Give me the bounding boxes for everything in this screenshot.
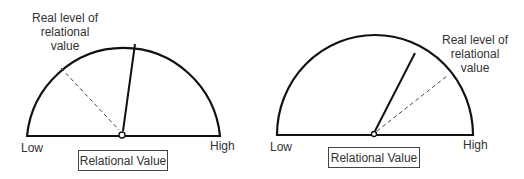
right-low-label: Low — [270, 141, 292, 154]
right-relational-value-box: Relational Value — [328, 147, 420, 168]
right-dashed-pointer — [377, 76, 447, 131]
right-pivot — [372, 132, 377, 137]
right-high-label: High — [463, 139, 488, 152]
left-low-label: Low — [21, 142, 43, 155]
left-annotation-line-3: value — [20, 39, 110, 53]
left-high-label: High — [210, 140, 235, 153]
left-solid-pointer — [123, 44, 135, 131]
left-dashed-pointer — [61, 68, 119, 130]
left-annotation-line-1: Real level of — [20, 11, 110, 25]
left-annotation-line-2: relational — [20, 25, 110, 39]
right-annotation-line-1: Real level of — [430, 33, 520, 47]
left-gauge — [27, 44, 220, 138]
left-pivot — [119, 132, 125, 138]
left-relational-value-box: Relational Value — [78, 150, 168, 171]
left-annotation: Real level of relational value — [20, 11, 110, 53]
right-annotation-line-2: relational — [430, 47, 520, 61]
right-annotation-line-3: value — [430, 61, 520, 75]
right-annotation: Real level of relational value — [430, 33, 520, 75]
right-solid-pointer — [375, 53, 415, 131]
